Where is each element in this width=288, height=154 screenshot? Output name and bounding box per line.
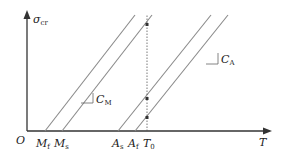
line-as bbox=[118, 15, 211, 131]
y-axis-label: σcr bbox=[33, 14, 48, 27]
tick-label-as: As bbox=[112, 138, 124, 151]
dot-mf-t0 bbox=[146, 23, 149, 26]
x-axis-arrow-icon bbox=[263, 128, 272, 135]
tick-label-t0: T0 bbox=[143, 138, 155, 151]
tick-label-ms: Ms bbox=[54, 138, 69, 151]
line-mf bbox=[45, 15, 135, 131]
slope-label-cm: CM bbox=[96, 94, 112, 107]
slope-triangle-ca bbox=[206, 53, 218, 64]
y-axis-arrow-icon bbox=[24, 10, 31, 19]
line-af bbox=[135, 15, 228, 131]
line-ms bbox=[62, 15, 152, 131]
x-axis-label: T bbox=[259, 137, 266, 148]
tick-label-af: Af bbox=[128, 138, 139, 151]
dot-af-t0 bbox=[146, 116, 149, 119]
origin-label: O bbox=[16, 135, 25, 146]
dot-as-t0 bbox=[146, 97, 149, 100]
tick-label-mf: Mf bbox=[36, 138, 50, 151]
slope-label-ca: CA bbox=[221, 54, 234, 67]
